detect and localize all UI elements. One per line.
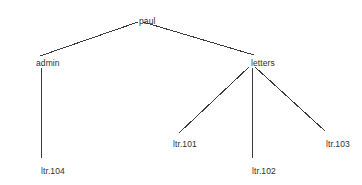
- tree-node-letters[interactable]: letters: [251, 58, 275, 68]
- tree-edge-letters-to-ltr101: [179, 67, 249, 133]
- tree-edge-paul-to-letters: [143, 22, 254, 55]
- tree-node-ltr103[interactable]: ltr.103: [326, 139, 350, 149]
- tree-diagram: pauladminlettersltr.104ltr.101ltr.102ltr…: [0, 0, 362, 185]
- tree-node-admin[interactable]: admin: [36, 58, 60, 68]
- tree-node-paul[interactable]: paul: [139, 16, 155, 26]
- tree-node-ltr104[interactable]: ltr.104: [41, 166, 65, 176]
- edges-group: [40, 22, 325, 158]
- tree-edge-paul-to-admin: [40, 22, 138, 56]
- tree-edge-letters-to-ltr103: [255, 67, 325, 131]
- tree-node-ltr102[interactable]: ltr.102: [252, 166, 276, 176]
- tree-node-ltr101[interactable]: ltr.101: [173, 139, 197, 149]
- tree-edges-layer: [0, 0, 362, 185]
